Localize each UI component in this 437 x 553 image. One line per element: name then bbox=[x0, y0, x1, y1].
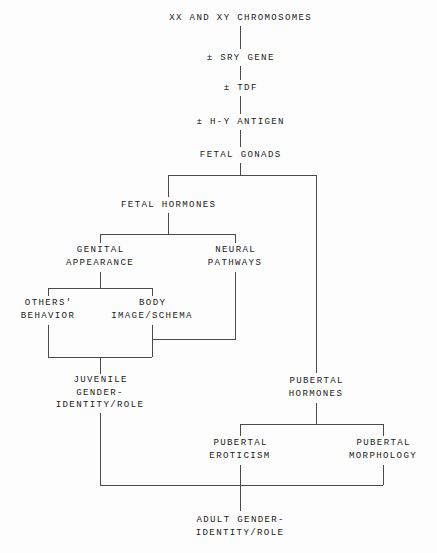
node-pubertal-eroticism: PUBERTAL EROTICISM bbox=[206, 437, 273, 462]
node-tdf: ± TDF bbox=[219, 82, 260, 95]
node-hy-antigen: ± H-Y ANTIGEN bbox=[192, 116, 288, 129]
node-fetal-hormones: FETAL HORMONES bbox=[117, 199, 220, 212]
node-sry-gene: ± SRY GENE bbox=[202, 52, 277, 65]
node-genital-appearance: GENITAL APPEARANCE bbox=[63, 244, 137, 269]
node-fetal-gonads: FETAL GONADS bbox=[195, 149, 284, 162]
node-pubertal-morphology: PUBERTAL MORPHOLOGY bbox=[346, 437, 420, 462]
flowchart-diagram: XX AND XY CHROMOSOMES ± SRY GENE ± TDF ±… bbox=[0, 0, 437, 553]
node-pubertal-hormones: PUBERTAL HORMONES bbox=[285, 375, 347, 400]
node-neural-pathways: NEURAL PATHWAYS bbox=[205, 244, 265, 269]
node-others-behavior: OTHERS' BEHAVIOR bbox=[18, 297, 78, 322]
node-adult-gender-identity-role: ADULT GENDER- IDENTITY/ROLE bbox=[192, 514, 288, 539]
node-chromosomes: XX AND XY CHROMOSOMES bbox=[165, 12, 315, 25]
node-body-image-schema: BODY IMAGE/SCHEMA bbox=[108, 297, 196, 322]
node-juvenile-gender-identity-role: JUVENILE GENDER- IDENTITY/ROLE bbox=[53, 374, 148, 412]
